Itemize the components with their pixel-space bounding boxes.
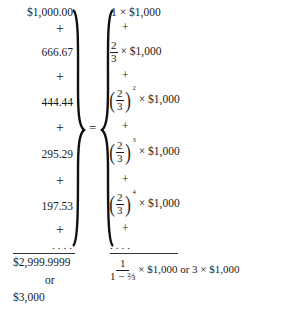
plus-sign: +: [56, 174, 64, 188]
sum-rule-right: [110, 253, 178, 254]
sum-rule-left: [13, 253, 75, 254]
plus-sign: +: [56, 121, 64, 135]
term-197: 197.53: [41, 201, 73, 213]
ellipsis: ....: [110, 240, 133, 251]
rounded-total: $3,000: [13, 292, 45, 304]
term-295: 295.29: [41, 149, 73, 161]
plus-sign: +: [122, 70, 129, 82]
total: $2,999.9999: [13, 257, 71, 269]
times-sign: ×: [139, 145, 146, 157]
times-sign: ×: [139, 93, 146, 105]
times-sign: ×: [120, 6, 127, 18]
sum-formula: 1 1 − ⅔ × $1,000 or 3 × $1,000: [110, 258, 240, 282]
plus-sign: +: [56, 223, 64, 237]
times-sign: ×: [138, 263, 144, 275]
plus-sign: +: [122, 22, 129, 34]
fraction-two-thirds: 23: [110, 40, 118, 64]
series-term-4: (23)3 × $1,000: [108, 140, 180, 164]
exponent: 4: [133, 188, 136, 195]
times-sign: ×: [139, 197, 146, 209]
equals-sign: =: [89, 121, 96, 134]
series-term-5: (23)4 × $1,000: [108, 192, 180, 216]
right-brace-icon: [72, 8, 86, 248]
exponent: 3: [133, 136, 136, 143]
or-label: or: [45, 275, 55, 287]
term-444: 444.44: [41, 97, 73, 109]
exponent: 2: [133, 84, 136, 91]
geometric-sum-fraction: 1 1 − ⅔: [110, 258, 135, 282]
plus-sign: +: [122, 223, 129, 235]
series-term-3: (23)2 × $1,000: [108, 88, 180, 112]
plus-sign: +: [56, 22, 64, 36]
times-sign: ×: [120, 45, 127, 57]
plus-sign: +: [122, 174, 129, 186]
plus-sign: +: [56, 70, 64, 84]
term-666: 666.67: [41, 47, 73, 59]
term-1000: $1,000.00: [27, 7, 73, 19]
plus-sign: +: [122, 121, 129, 133]
series-term-1: 1 × $1,000: [111, 7, 161, 19]
series-term-2: 23 × $1,000: [110, 40, 161, 64]
